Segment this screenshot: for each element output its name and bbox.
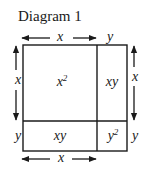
region-xy-top-right: xy — [106, 75, 118, 89]
region-xy-bottom-left: xy — [54, 129, 66, 143]
region-y-squared: y2 — [108, 129, 119, 143]
square-diagram-graphic — [0, 0, 148, 176]
bottom-x-label: x — [58, 151, 64, 165]
x-squared-exponent: 2 — [63, 73, 68, 83]
left-x-label: x — [15, 73, 21, 87]
left-y-label: y — [15, 129, 21, 143]
right-x-label: x — [132, 70, 138, 84]
top-y-label: y — [107, 30, 113, 44]
region-x-squared: x2 — [57, 75, 68, 89]
right-y-label: y — [132, 129, 138, 143]
y-squared-exponent: 2 — [114, 127, 119, 137]
diagram-1: Diagram 1 — [0, 0, 148, 176]
top-x-label: x — [57, 30, 63, 44]
